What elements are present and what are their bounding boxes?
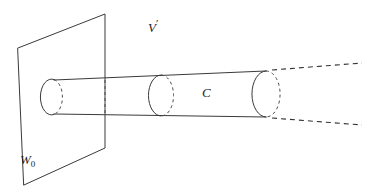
- cylinder-right-cap-front-arc: [252, 71, 266, 117]
- label-cylinder-c: C: [202, 86, 211, 99]
- label-ambient-space-v: V′: [148, 18, 158, 34]
- cylinder-middle-cap-front-arc: [148, 75, 161, 116]
- label-v-prime: ′: [156, 17, 158, 29]
- cylinder-right-cap-back-arc: [266, 71, 280, 117]
- label-plane-w0: W0: [20, 153, 35, 169]
- cylinder-middle-cap-back-arc: [161, 75, 174, 116]
- figure-canvas: V′ W0 C: [0, 0, 369, 195]
- label-w-subscript: 0: [31, 159, 36, 169]
- label-v-base: V: [148, 20, 156, 35]
- cylinder-extension-bottom-dashed: [272, 118, 362, 125]
- cylinder-left-cap-back-arc: [54, 80, 62, 115]
- label-c-base: C: [202, 85, 211, 100]
- label-w-base: W: [20, 152, 31, 167]
- cylinder-left-cap-front-arc: [40, 79, 54, 115]
- cylinder-extension-top-dashed: [272, 63, 362, 70]
- diagram-svg: [0, 0, 369, 195]
